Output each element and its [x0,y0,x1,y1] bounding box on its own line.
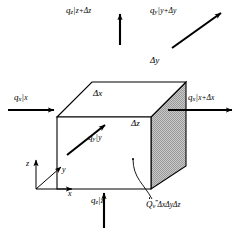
flux-label-right-at: x+Δx [198,93,214,102]
flux-label-left: qx|x [14,93,28,103]
axis-label-x: x [68,190,72,198]
flux-label-bottom-at: z [101,196,104,205]
generation-label: Qv‴ΔxΔyΔz [146,199,180,210]
flux-label-back-at: y+Δy [160,6,176,15]
flux-label-top: qz|z+Δz [66,6,91,16]
flux-label-top-at: z+Δz [76,6,91,15]
flux-label-bottom: qz|z [91,196,104,206]
flux-arrow-back [172,13,221,48]
axis-label-y: y [62,166,66,174]
generation-symbol-q: Q [146,200,153,209]
generation-volume: ΔxΔyΔz [158,200,181,209]
flux-label-back: qy|y+Δy [150,6,176,16]
dimension-label-dx: Δx [93,89,102,98]
flux-label-left-at: x [24,93,27,102]
diagram-canvas [0,0,238,230]
control-volume-diagram: qz|z+Δz qy|y+Δy qx|x qx|x+Δx qy|y qz|z Δ… [0,0,238,230]
flux-label-front-interior: qy|y [88,133,102,143]
axis-label-z: z [26,160,29,168]
generation-anchor-dot [132,158,134,160]
dimension-label-dz: Δz [131,119,140,128]
dimension-label-dy: Δy [150,56,159,65]
flux-label-front-at: y [98,133,101,142]
flux-label-right: qx|x+Δx [188,93,214,103]
